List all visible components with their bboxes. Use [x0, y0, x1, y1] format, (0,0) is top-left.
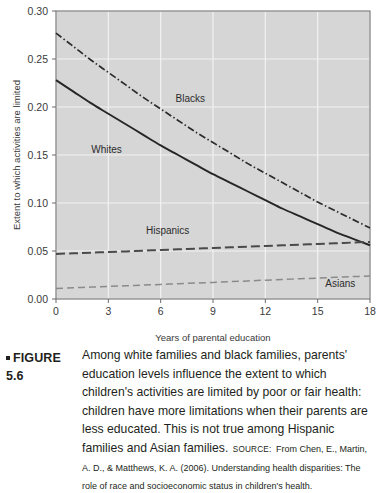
y-axis-tick-label: 0.30: [28, 5, 49, 17]
series-label-asians: Asians: [325, 278, 355, 289]
y-axis-title: Extent to which activities are limited: [11, 80, 22, 230]
x-axis-tick-label: 15: [312, 305, 324, 317]
y-axis-tick-label: 0.05: [28, 245, 49, 257]
figure-chart-container: 0.000.050.100.150.200.250.30 0369121518 …: [0, 0, 387, 348]
series-label-whites: Whites: [91, 144, 122, 155]
x-axis-tick-label: 6: [158, 305, 164, 317]
series-label-blacks: Blacks: [176, 93, 205, 104]
x-axis-tick-label: 18: [364, 305, 376, 317]
x-axis-tick-label: 0: [53, 305, 59, 317]
y-axis-tick-labels: 0.000.050.100.150.200.250.30: [28, 5, 49, 305]
figure-number-group: FIGURE 5.6: [6, 348, 76, 384]
x-axis-tick-label: 3: [105, 305, 111, 317]
y-axis-tick-label: 0.25: [28, 53, 49, 65]
line-chart: 0.000.050.100.150.200.250.30 0369121518 …: [0, 0, 387, 348]
figure-number-label: FIGURE 5.6: [6, 351, 61, 383]
y-axis-tick-label: 0.00: [28, 293, 49, 305]
x-axis-tick-label: 12: [259, 305, 271, 317]
caption-row: FIGURE 5.6 Among white families and blac…: [0, 345, 387, 493]
y-axis-tick-label: 0.10: [28, 197, 49, 209]
square-bullet-icon: [6, 356, 10, 360]
caption-text: Among white families and black families,…: [82, 348, 368, 455]
y-axis-tick-label: 0.20: [28, 101, 49, 113]
x-axis-tick-label: 9: [210, 305, 216, 317]
figure-caption-block: FIGURE 5.6 Among white families and blac…: [0, 345, 387, 493]
series-label-hispanics: Hispanics: [146, 225, 189, 236]
x-axis-title: Years of parental education: [155, 332, 270, 343]
y-axis-tick-label: 0.15: [28, 149, 49, 161]
source-keyword: SOURCE:: [233, 445, 272, 454]
x-axis-tick-labels: 0369121518: [53, 305, 376, 317]
